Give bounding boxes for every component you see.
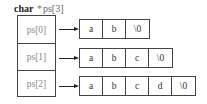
string-array-2: a b c d \0 — [79, 76, 196, 96]
char-cell: c — [126, 77, 149, 95]
arrow-icon — [59, 58, 76, 59]
char-cell: \0 — [126, 20, 149, 38]
char-cell: b — [103, 20, 126, 38]
pointer-cell-1: ps[1] — [18, 43, 55, 70]
char-cell: c — [126, 49, 149, 67]
pointer-cell-2: ps[2] — [18, 70, 55, 97]
char-cell: a — [80, 20, 103, 38]
char-cell: b — [103, 49, 126, 67]
type-keyword: char — [14, 3, 33, 14]
char-cell: b — [103, 77, 126, 95]
char-cell: \0 — [149, 49, 172, 67]
arrow-icon — [59, 86, 76, 87]
pointer-star: * — [37, 3, 42, 14]
char-cell: a — [80, 77, 103, 95]
string-array-0: a b \0 — [79, 19, 150, 39]
array-identifier: ps[3] — [43, 3, 64, 14]
declaration-title: char *ps[3] — [14, 3, 64, 14]
string-array-1: a b c \0 — [79, 48, 173, 68]
pointer-array: ps[0] ps[1] ps[2] — [17, 15, 56, 97]
char-cell: \0 — [172, 77, 195, 95]
arrow-icon — [59, 29, 76, 30]
pointer-cell-0: ps[0] — [18, 16, 55, 43]
char-cell: d — [149, 77, 172, 95]
char-cell: a — [80, 49, 103, 67]
